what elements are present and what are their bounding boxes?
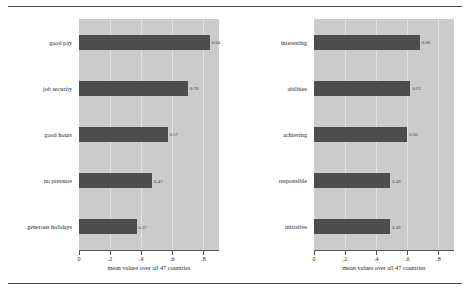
bar: 0.49: [314, 219, 390, 234]
bar: 0.62: [314, 81, 410, 96]
axis-tick: [141, 251, 142, 255]
axis-tick-label: .2: [108, 256, 113, 262]
bar: 0.68: [314, 35, 420, 50]
bar-value-label: 0.68: [422, 40, 430, 45]
category-label: achieving: [283, 111, 307, 157]
bar-value-label: 0.47: [154, 178, 162, 183]
bar-row: 0.70: [79, 65, 219, 111]
axis-tick: [79, 251, 80, 255]
bar: 0.57: [79, 127, 168, 142]
category-label: abilities: [287, 65, 307, 111]
axis-tick-label: .2: [343, 256, 348, 262]
bar-row: 0.37: [79, 204, 219, 250]
axis-tick: [407, 251, 408, 255]
axis-tick-label: 0: [78, 256, 81, 262]
axis-tick-label: .4: [139, 256, 144, 262]
axis-tick-label: .6: [170, 256, 175, 262]
top-divider-rule: [8, 6, 462, 7]
axis-tick-label: .6: [405, 256, 410, 262]
category-label: job security: [43, 65, 72, 111]
bar: 0.47: [79, 173, 152, 188]
bars-right: 0.490.490.600.620.68: [314, 19, 454, 250]
axis-tick: [314, 251, 315, 255]
category-label: responsible: [279, 158, 307, 204]
category-label: good hours: [44, 111, 72, 157]
bar: 0.37: [79, 219, 137, 234]
bar-row: 0.60: [314, 111, 454, 157]
bar-value-label: 0.49: [392, 178, 400, 183]
bar-row: 0.49: [314, 158, 454, 204]
chart-panel-right: initiativeresponsibleachievingabilitiesi…: [241, 12, 462, 280]
axis-tick: [438, 251, 439, 255]
bar-value-label: 0.62: [412, 86, 420, 91]
bar: 0.70: [79, 81, 188, 96]
bar: 0.49: [314, 173, 390, 188]
x-axis-title-right: mean values over all 47 countries: [314, 264, 454, 271]
bar-row: 0.47: [79, 158, 219, 204]
category-label: generous holidays: [27, 204, 72, 250]
axis-tick: [376, 251, 377, 255]
category-label: interesting: [281, 19, 307, 65]
category-label: initiative: [285, 204, 307, 250]
bars-left: 0.370.470.570.700.84: [79, 19, 219, 250]
axis-tick: [203, 251, 204, 255]
axis-tick-label: .4: [374, 256, 379, 262]
axis-tick-label: 0: [313, 256, 316, 262]
x-axis-left: 0.2.4.6.8: [79, 250, 219, 251]
bar: 0.60: [314, 127, 407, 142]
category-labels-left: generous holidaysno pressuregood hoursjo…: [6, 19, 76, 250]
category-label: no pressure: [44, 158, 72, 204]
bar-value-label: 0.70: [190, 86, 198, 91]
bar-value-label: 0.60: [409, 132, 417, 137]
x-axis-title-left: mean values over all 47 countries: [79, 264, 219, 271]
category-label: good pay: [49, 19, 72, 65]
bar-value-label: 0.57: [170, 132, 178, 137]
axis-tick: [110, 251, 111, 255]
axis-tick-label: .8: [201, 256, 206, 262]
bar-row: 0.49: [314, 204, 454, 250]
bottom-divider-rule: [8, 283, 462, 284]
bar-value-label: 0.49: [392, 224, 400, 229]
bar-row: 0.84: [79, 19, 219, 65]
bar-value-label: 0.37: [139, 224, 147, 229]
bar-row: 0.57: [79, 111, 219, 157]
bar: 0.84: [79, 35, 210, 50]
bar-value-label: 0.84: [212, 40, 220, 45]
bar-row: 0.62: [314, 65, 454, 111]
figure-container: generous holidaysno pressuregood hoursjo…: [0, 0, 470, 290]
x-axis-right: 0.2.4.6.8: [314, 250, 454, 251]
chart-panel-left: generous holidaysno pressuregood hoursjo…: [6, 12, 227, 280]
axis-tick: [345, 251, 346, 255]
category-labels-right: initiativeresponsibleachievingabilitiesi…: [241, 19, 311, 250]
axis-tick-label: .8: [436, 256, 441, 262]
axis-tick: [172, 251, 173, 255]
bar-row: 0.68: [314, 19, 454, 65]
